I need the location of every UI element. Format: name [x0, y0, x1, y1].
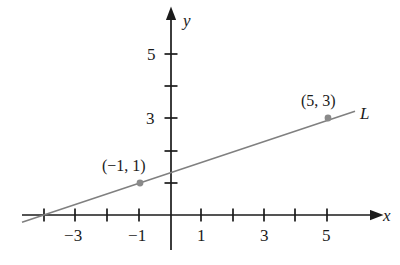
x-tick-label-5: 5 — [322, 227, 331, 244]
x-axis-label: x — [383, 207, 391, 224]
y-tick-label-5: 5 — [147, 46, 156, 63]
x-tick-label-3: 3 — [260, 227, 269, 244]
point-marker--1-1 — [137, 180, 144, 187]
y-tick-label-3: 3 — [146, 110, 155, 127]
line-L — [22, 111, 355, 222]
figure-canvas: y x 5 3 −3 −1 1 3 5 (−1, 1) (5, 3) L — [0, 0, 400, 265]
point-marker-5-3 — [325, 115, 332, 122]
point-label-5-3: (5, 3) — [301, 93, 336, 109]
y-axis-label: y — [183, 12, 191, 29]
x-tick-label--1: −1 — [128, 227, 147, 244]
x-tick-label--3: −3 — [64, 227, 83, 244]
line-label-L: L — [360, 105, 369, 122]
point-label--1-1: (−1, 1) — [102, 158, 146, 174]
x-tick-label-1: 1 — [197, 227, 206, 244]
